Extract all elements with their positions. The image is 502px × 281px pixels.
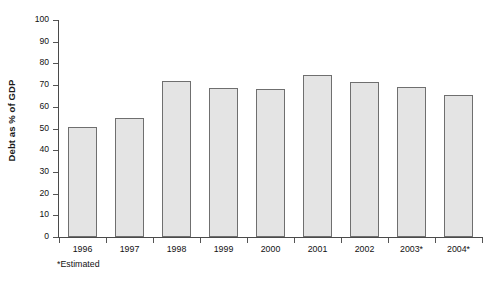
- bar[interactable]: [256, 89, 285, 237]
- y-axis-tick-label: 70: [23, 79, 49, 90]
- x-axis-tick-label: 2000: [247, 243, 294, 257]
- bar[interactable]: [350, 82, 379, 237]
- footnote: *Estimated: [57, 259, 100, 269]
- bar[interactable]: [209, 88, 238, 237]
- y-axis-tick-label: 50: [23, 123, 49, 134]
- y-axis-tick-label: 0: [23, 231, 49, 242]
- bar-slot: [106, 20, 153, 237]
- y-axis-tick-label: 80: [23, 57, 49, 68]
- y-axis-ticks: 1009080706050403020100: [22, 20, 58, 237]
- bar[interactable]: [162, 81, 191, 237]
- bar-series: [59, 20, 482, 237]
- x-axis-tick-label: 2003*: [388, 243, 435, 257]
- bar-slot: [341, 20, 388, 237]
- y-axis-tick-label: 30: [23, 166, 49, 177]
- y-axis-title-label: Debt as % of GDP: [7, 79, 18, 161]
- x-axis-tick-label: 2004*: [435, 243, 482, 257]
- bar[interactable]: [68, 127, 97, 237]
- x-axis-tick-label: 2001: [294, 243, 341, 257]
- chart-canvas: Debt as % of GDP 1009080706050403020100 …: [0, 0, 502, 281]
- x-axis-tick-mark: [482, 238, 483, 243]
- bar-slot: [294, 20, 341, 237]
- y-axis-tick-label: 60: [23, 101, 49, 112]
- bar-slot: [200, 20, 247, 237]
- bar-slot: [59, 20, 106, 237]
- x-axis-tick-label: 1999: [200, 243, 247, 257]
- bar-slot: [435, 20, 482, 237]
- x-axis-tick-label: 1998: [153, 243, 200, 257]
- bar-slot: [247, 20, 294, 237]
- bar[interactable]: [397, 87, 426, 237]
- x-axis-labels: 19961997199819992000200120022003*2004*: [59, 243, 482, 257]
- y-axis-tick-label: 90: [23, 36, 49, 47]
- bar[interactable]: [115, 118, 144, 237]
- bar[interactable]: [303, 75, 332, 237]
- x-axis-tick-label: 1997: [106, 243, 153, 257]
- y-axis-tick-label: 40: [23, 144, 49, 155]
- bar-slot: [388, 20, 435, 237]
- bar-slot: [153, 20, 200, 237]
- x-axis-tick-label: 1996: [59, 243, 106, 257]
- x-axis-tick-label: 2002: [341, 243, 388, 257]
- bar[interactable]: [444, 95, 473, 237]
- y-axis-tick-label: 10: [23, 209, 49, 220]
- y-axis-tick-label: 100: [23, 14, 49, 25]
- y-axis-title: Debt as % of GDP: [2, 0, 22, 240]
- y-axis-tick-label: 20: [23, 188, 49, 199]
